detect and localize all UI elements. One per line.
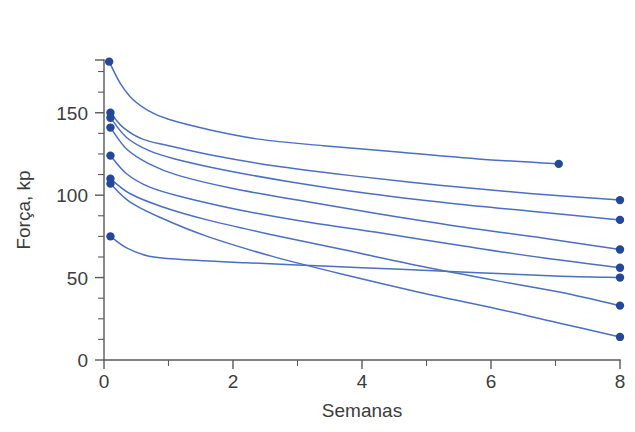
- line-chart-plot: 05010015002468SemanasForça, kp: [0, 0, 635, 432]
- series-line-subject-3: [110, 118, 620, 220]
- data-point-subject-7-end: [616, 333, 624, 341]
- series-line-subject-2: [110, 113, 620, 200]
- series-markers-subject-3: [106, 113, 624, 224]
- data-point-subject-8-start: [106, 232, 114, 240]
- series-line-subject-8: [110, 236, 620, 277]
- x-tick-label-8: 8: [615, 371, 626, 392]
- series-markers-subject-1: [105, 57, 563, 168]
- series-markers-subject-4: [106, 123, 624, 253]
- series-line-subject-1: [109, 62, 559, 164]
- data-point-subject-2-end: [616, 196, 624, 204]
- y-axis-title: Força, kp: [13, 170, 34, 249]
- data-point-subject-3-start: [106, 113, 114, 121]
- data-point-subject-1-end: [555, 160, 563, 168]
- data-point-subject-5-start: [106, 151, 114, 159]
- x-tick-label-2: 2: [228, 371, 239, 392]
- data-point-subject-7-start: [106, 179, 114, 187]
- y-tick-label-150: 150: [56, 103, 88, 124]
- x-axis-title: Semanas: [322, 400, 402, 421]
- chart-figure: 05010015002468SemanasForça, kp: [0, 0, 635, 432]
- y-tick-label-100: 100: [56, 185, 88, 206]
- data-point-subject-1-start: [105, 57, 113, 65]
- series-layer: [105, 57, 624, 341]
- series-subject-2: [110, 113, 620, 200]
- series-markers-subject-2: [106, 109, 624, 205]
- series-subject-1: [109, 62, 559, 164]
- series-markers-subject-8: [106, 232, 624, 282]
- series-subject-8: [110, 236, 620, 277]
- data-point-subject-5-end: [616, 263, 624, 271]
- axis-labels-layer: 05010015002468SemanasForça, kp: [13, 103, 625, 421]
- x-tick-label-4: 4: [357, 371, 368, 392]
- axes-layer: [95, 60, 620, 369]
- y-tick-label-50: 50: [67, 268, 88, 289]
- data-point-subject-3-end: [616, 216, 624, 224]
- data-point-subject-4-end: [616, 245, 624, 253]
- x-tick-label-0: 0: [99, 371, 110, 392]
- data-point-subject-8-end: [616, 273, 624, 281]
- data-point-subject-4-start: [106, 123, 114, 131]
- y-tick-label-0: 0: [77, 350, 88, 371]
- data-point-subject-6-end: [616, 301, 624, 309]
- series-subject-3: [110, 118, 620, 220]
- x-tick-label-6: 6: [486, 371, 497, 392]
